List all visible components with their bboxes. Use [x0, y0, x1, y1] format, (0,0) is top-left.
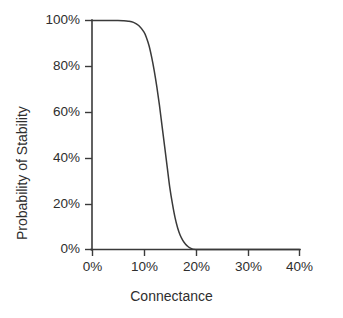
- y-tick-label-60: 60%: [34, 104, 80, 119]
- y-tick-label-20: 20%: [34, 196, 80, 211]
- x-tick-label-30: 30%: [223, 259, 274, 274]
- x-tick-label-0: 0%: [67, 259, 118, 274]
- x-axis-title: Connectance: [0, 288, 343, 304]
- chart-figure: 100% 80% 60% 40% 20% 0% 0% 10% 20% 30% 4…: [0, 0, 343, 318]
- x-tick-label-10: 10%: [119, 259, 170, 274]
- x-tick-label-20: 20%: [171, 259, 222, 274]
- y-tick-label-0: 0%: [34, 241, 80, 256]
- y-axis-ticks: [85, 21, 92, 250]
- y-axis-title: Probability of Stability: [14, 106, 30, 240]
- x-tick-label-40: 40%: [274, 259, 325, 274]
- y-tick-label-100: 100%: [34, 12, 80, 27]
- y-tick-label-80: 80%: [34, 58, 80, 73]
- stability-probability-curve: [92, 20, 300, 249]
- y-tick-label-40: 40%: [34, 150, 80, 165]
